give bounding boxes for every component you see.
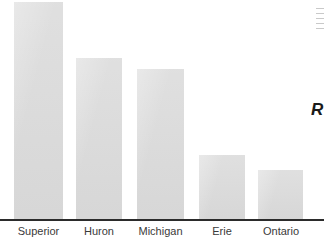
x-tick-label-superior: Superior: [2, 224, 75, 239]
clipped-edge-ticks-icon: [316, 8, 324, 36]
bar-erie[interactable]: [199, 155, 245, 219]
x-tick-label-ontario: Ontario: [250, 224, 312, 239]
x-tick-label-huron: Huron: [68, 224, 130, 239]
bar-ontario[interactable]: [258, 170, 303, 219]
bar-chart-figure: Superior Huron Michigan Erie Ontario R: [0, 0, 324, 242]
bar-michigan[interactable]: [137, 69, 184, 219]
bar-superior[interactable]: [14, 2, 63, 219]
x-axis-line: [0, 219, 324, 221]
bar-huron[interactable]: [76, 58, 122, 219]
x-axis-tick-labels: Superior Huron Michigan Erie Ontario: [0, 224, 324, 242]
clipped-edge-glyph-icon: R: [311, 100, 324, 120]
plot-area: [0, 0, 324, 219]
x-tick-label-erie: Erie: [194, 224, 250, 239]
x-tick-label-michigan: Michigan: [126, 224, 195, 239]
